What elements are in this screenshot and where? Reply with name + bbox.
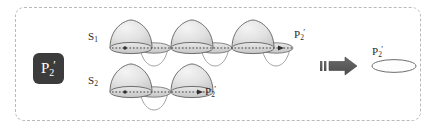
label-p2-prime-result: P2′ <box>372 45 383 58</box>
label-p2-prime-top: P2′ <box>294 28 305 41</box>
label-p-res-prime: ′ <box>381 44 383 54</box>
label-s2: S2 <box>88 75 98 87</box>
label-p-top-prime: ′ <box>303 27 305 37</box>
label-s1: S1 <box>88 31 98 43</box>
arrow-tick-1 <box>320 61 322 71</box>
orbital-row-s1 <box>110 20 293 66</box>
s2-lobe-1 <box>110 64 152 98</box>
orbital-diagram-art <box>0 0 437 136</box>
arrow-tick-2 <box>324 61 326 71</box>
label-s1-sub: 1 <box>94 35 98 44</box>
s1-up-lobes <box>110 20 274 54</box>
arrow-right-icon <box>329 57 357 75</box>
result-orbital <box>372 60 416 73</box>
combine-arrow <box>320 57 357 75</box>
label-s2-sub: 2 <box>94 79 98 88</box>
result-ellipse <box>372 60 416 73</box>
figure-root: P2′ <box>0 0 437 136</box>
orbital-row-s2 <box>110 64 213 110</box>
s1-lobe-1 <box>110 20 152 54</box>
s1-node-dot <box>123 46 126 49</box>
label-p-bot-prime: ′ <box>214 84 216 94</box>
s2-node-dot <box>123 90 126 93</box>
s1-lobe-3 <box>232 20 274 54</box>
s1-lobe-2 <box>171 20 213 54</box>
label-p2-prime-bottom: P2′ <box>205 85 216 98</box>
